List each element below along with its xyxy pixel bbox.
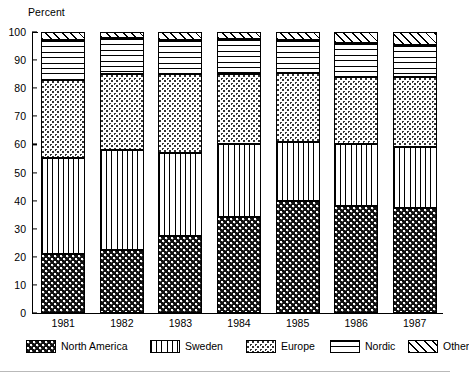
bar-segment-other[interactable] — [41, 32, 85, 40]
bar-segment-other[interactable] — [158, 32, 202, 40]
y-axis-tick-label: 60 — [0, 138, 33, 150]
y-axis-tick-mark — [32, 228, 37, 229]
legend-label: Sweden — [185, 340, 223, 352]
bar-stack[interactable] — [41, 32, 85, 313]
legend-item-nordic[interactable]: Nordic — [330, 338, 395, 354]
bar-segment-sweden[interactable] — [334, 144, 378, 206]
legend-item-other[interactable]: Other — [408, 338, 469, 354]
bar-segment-north-america[interactable] — [393, 208, 437, 313]
bar-segment-europe[interactable] — [334, 77, 378, 144]
bar-segment-other[interactable] — [217, 32, 261, 39]
bar-segment-europe[interactable] — [276, 73, 320, 142]
y-axis-tick-label: 40 — [0, 195, 33, 207]
bar-segment-other[interactable] — [276, 32, 320, 40]
bar-segment-nordic[interactable] — [393, 45, 437, 77]
legend-item-sweden[interactable]: Sweden — [150, 338, 223, 354]
y-axis-tick-label: 30 — [0, 223, 33, 235]
bar-segment-other[interactable] — [100, 32, 144, 38]
y-axis-tick-label: 10 — [0, 279, 33, 291]
bar-segment-north-america[interactable] — [334, 206, 378, 313]
bar-segment-other[interactable] — [393, 32, 437, 45]
legend-swatch-other-icon — [408, 340, 438, 353]
y-axis-tick-mark — [32, 60, 37, 61]
bar-segment-nordic[interactable] — [334, 43, 378, 77]
bar-segment-europe[interactable] — [217, 74, 261, 144]
y-axis-tick-mark — [32, 200, 37, 201]
x-axis-tick-label: 1985 — [268, 317, 328, 329]
bar-stack[interactable] — [276, 32, 320, 313]
bar-segment-europe[interactable] — [158, 74, 202, 153]
legend-label: Europe — [281, 340, 315, 352]
legend-swatch-nordic-icon — [330, 340, 360, 353]
bar-segment-nordic[interactable] — [276, 40, 320, 72]
y-axis-tick-label: 50 — [0, 167, 33, 179]
bar-segment-sweden[interactable] — [41, 158, 85, 254]
bar-segment-nordic[interactable] — [158, 40, 202, 74]
bar-segment-europe[interactable] — [41, 80, 85, 159]
x-axis-tick-label: 1986 — [326, 317, 386, 329]
legend-label: North America — [61, 340, 128, 352]
chart-legend: North AmericaSwedenEuropeNordicOther — [0, 338, 450, 360]
bar-segment-europe[interactable] — [100, 74, 144, 150]
legend-item-europe[interactable]: Europe — [246, 338, 315, 354]
x-axis-tick-label: 1983 — [150, 317, 210, 329]
bar-segment-other[interactable] — [334, 32, 378, 43]
y-axis-tick-label: 100 — [0, 26, 33, 38]
bar-segment-nordic[interactable] — [41, 40, 85, 79]
legend-label: Other — [443, 340, 469, 352]
legend-swatch-sweden-icon — [150, 340, 180, 353]
bar-segment-sweden[interactable] — [393, 147, 437, 207]
bar-segment-nordic[interactable] — [217, 39, 261, 74]
y-axis-tick-mark — [32, 172, 37, 173]
x-axis-tick-label: 1984 — [209, 317, 269, 329]
y-axis-tick-mark — [32, 144, 37, 145]
bar-stack[interactable] — [100, 32, 144, 313]
bar-segment-north-america[interactable] — [276, 201, 320, 313]
y-axis-tick-label: 90 — [0, 54, 33, 66]
bar-segment-north-america[interactable] — [217, 217, 261, 313]
bar-stack[interactable] — [217, 32, 261, 313]
y-axis-tick-label: 0 — [0, 307, 33, 319]
bar-segment-sweden[interactable] — [158, 153, 202, 236]
x-axis-tick-label: 1982 — [92, 317, 152, 329]
bar-segment-europe[interactable] — [393, 77, 437, 147]
bar-segment-sweden[interactable] — [276, 142, 320, 201]
legend-label: Nordic — [365, 340, 395, 352]
bar-segment-north-america[interactable] — [158, 236, 202, 313]
y-axis-tick-label: 20 — [0, 251, 33, 263]
axis-corner-tick — [32, 32, 38, 33]
bar-segment-sweden[interactable] — [100, 150, 144, 250]
bar-stack[interactable] — [158, 32, 202, 313]
y-axis-title: Percent — [28, 6, 65, 18]
legend-item-north-america[interactable]: North America — [26, 338, 128, 354]
y-axis-tick-mark — [32, 312, 37, 313]
y-axis-tick-mark — [32, 256, 37, 257]
bar-stack[interactable] — [393, 32, 437, 313]
x-axis-tick-label: 1987 — [385, 317, 445, 329]
y-axis-tick-label: 80 — [0, 82, 33, 94]
bar-segment-nordic[interactable] — [100, 38, 144, 75]
bar-segment-sweden[interactable] — [217, 144, 261, 217]
bar-stack[interactable] — [334, 32, 378, 313]
bar-segment-north-america[interactable] — [41, 254, 85, 313]
x-axis-tick-label: 1981 — [33, 317, 93, 329]
y-axis-tick-label: 70 — [0, 110, 33, 122]
bar-segment-north-america[interactable] — [100, 250, 144, 313]
legend-swatch-europe-icon — [246, 340, 276, 353]
y-axis-tick-mark — [32, 88, 37, 89]
bottom-divider — [0, 371, 450, 372]
y-axis-tick-mark — [32, 284, 37, 285]
y-axis-tick-mark — [32, 116, 37, 117]
legend-swatch-north-america-icon — [26, 340, 56, 353]
